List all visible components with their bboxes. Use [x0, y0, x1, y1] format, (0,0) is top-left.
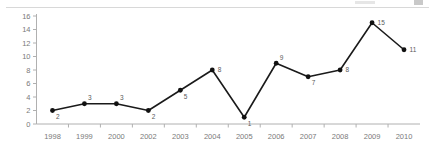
x-axis-tick-label: 1998: [44, 132, 61, 141]
x-axis-tick-label: 2010: [396, 132, 413, 141]
data-series: [52, 23, 404, 118]
data-point-label: 5: [184, 93, 188, 100]
x-axis-tick-label: 2002: [140, 132, 157, 141]
data-point-marker: [338, 68, 343, 73]
data-point-marker: [82, 101, 87, 106]
y-axis-tick-label: 6: [26, 79, 30, 88]
data-point-marker: [306, 74, 311, 79]
y-axis: 0246810121416: [22, 12, 36, 129]
y-axis-tick-label: 2: [26, 106, 30, 115]
data-markers: [50, 20, 406, 119]
data-point-marker: [274, 61, 279, 66]
data-point-labels: 23325819781511: [56, 19, 417, 127]
data-point-marker: [114, 101, 119, 106]
data-point-marker: [402, 47, 407, 52]
x-axis-tick-label: 1999: [76, 132, 93, 141]
x-axis-tick-label: 2006: [268, 132, 285, 141]
data-point-marker: [146, 108, 151, 113]
data-point-label: 7: [312, 79, 316, 86]
data-point-label: 1: [248, 120, 252, 127]
data-point-marker: [370, 20, 375, 25]
data-point-label: 3: [88, 94, 92, 101]
y-axis-tick-label: 8: [26, 66, 30, 75]
y-axis-tick-label: 10: [22, 52, 30, 61]
y-axis-tick-label: 12: [22, 39, 30, 48]
data-point-label: 9: [280, 54, 284, 61]
y-axis-tick-label: 4: [26, 93, 30, 102]
series-polyline: [52, 23, 404, 118]
x-axis-tick-label: 2008: [332, 132, 349, 141]
data-point-marker: [242, 115, 247, 120]
data-point-marker: [210, 68, 215, 73]
line-chart: 0246810121416 19981999200020022003200420…: [0, 0, 435, 153]
data-point-label: 15: [378, 19, 386, 26]
data-point-marker: [50, 108, 55, 113]
data-point-label: 2: [152, 113, 156, 120]
y-axis-tick-label: 0: [26, 120, 30, 129]
data-point-label: 11: [410, 46, 417, 53]
data-point-label: 3: [120, 94, 124, 101]
data-point-label: 8: [218, 66, 222, 73]
x-axis-tick-label: 2005: [236, 132, 253, 141]
y-axis-tick-label: 14: [22, 25, 30, 34]
x-axis-tick-label: 2000: [108, 132, 125, 141]
x-axis-tick-label: 2009: [364, 132, 381, 141]
data-point-label: 8: [346, 66, 350, 73]
chart-canvas: 0246810121416 19981999200020022003200420…: [0, 0, 435, 153]
data-point-label: 2: [56, 113, 60, 120]
x-axis-tick-label: 2003: [172, 132, 189, 141]
y-axis-tick-label: 16: [22, 12, 30, 21]
x-axis-tick-label: 2004: [204, 132, 221, 141]
data-point-marker: [178, 88, 183, 93]
x-axis: 1998199920002002200320042005200620072008…: [37, 124, 421, 141]
x-axis-tick-label: 2007: [300, 132, 317, 141]
